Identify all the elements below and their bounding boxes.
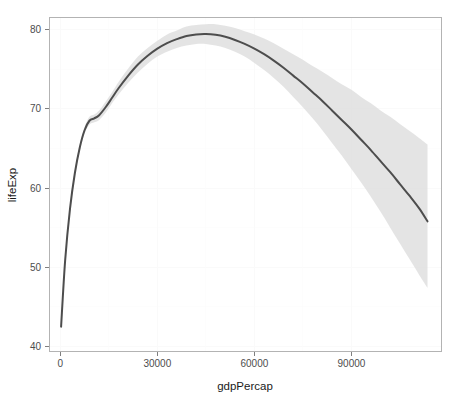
x-tick-label: 60000 [240, 358, 268, 369]
x-tick-label: 30000 [143, 358, 171, 369]
y-tick-label: 80 [30, 24, 42, 35]
chart-container: 4050607080 0300006000090000 gdpPercap li… [0, 0, 462, 398]
y-tick-label: 50 [30, 262, 42, 273]
x-axis-title: gdpPercap [217, 380, 273, 392]
y-axis-title: lifeExp [6, 168, 18, 203]
y-tick-label: 70 [30, 103, 42, 114]
loess-smooth-chart: 4050607080 0300006000090000 gdpPercap li… [0, 0, 462, 398]
x-tick-label: 0 [58, 358, 64, 369]
x-tick-label: 90000 [338, 358, 366, 369]
y-tick-label: 40 [30, 341, 42, 352]
y-tick-label: 60 [30, 183, 42, 194]
